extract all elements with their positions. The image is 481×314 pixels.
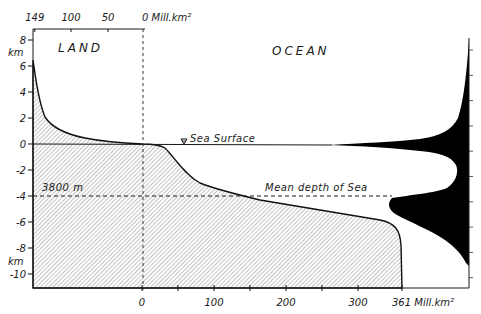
left-axis-ticks: 86420-2-4-6-8-10 (10, 35, 33, 280)
left-tick-label: -6 (16, 217, 26, 228)
ocean-label: OCEAN (272, 44, 330, 58)
left-tick-label: 8 (20, 35, 26, 46)
bottom-axis-end-label: 361 Mill.km² (392, 297, 454, 308)
bottom-tick-label: 200 (276, 297, 295, 308)
left-tick-label: -10 (10, 269, 26, 280)
sea-surface-icon (181, 139, 187, 144)
top-tick-label: 149 (25, 12, 44, 23)
mean-depth-value-label: 3800 m (42, 182, 83, 193)
left-tick-label: 2 (20, 113, 26, 124)
left-tick-label: -8 (16, 243, 26, 254)
top-axis-zero-label: 0 Mill.km² (142, 12, 191, 23)
left-tick-label: 4 (20, 87, 26, 98)
left-tick-label: -2 (16, 165, 26, 176)
top-tick-label: 100 (61, 12, 80, 23)
left-tick-label: 6 (20, 61, 26, 72)
top-tick-label: 50 (102, 12, 115, 23)
hypsographic-curve (33, 60, 402, 288)
bottom-tick-label: 100 (204, 297, 223, 308)
left-axis-unit-top: km (8, 47, 24, 58)
right-axis-ticks (469, 50, 473, 278)
land-label: LAND (58, 41, 103, 55)
left-axis-unit-bottom: km (8, 256, 24, 267)
sea-surface-label: Sea Surface (190, 133, 255, 144)
mean-depth-label: Mean depth of Sea (265, 182, 368, 193)
hypsographic-diagram: 86420-2-4-6-8-10 14910050 0100200300 km … (0, 0, 481, 314)
bottom-tick-label: 300 (348, 297, 367, 308)
left-tick-label: 0 (20, 139, 26, 150)
left-tick-label: -4 (16, 191, 26, 202)
bottom-tick-label: 0 (139, 297, 145, 308)
